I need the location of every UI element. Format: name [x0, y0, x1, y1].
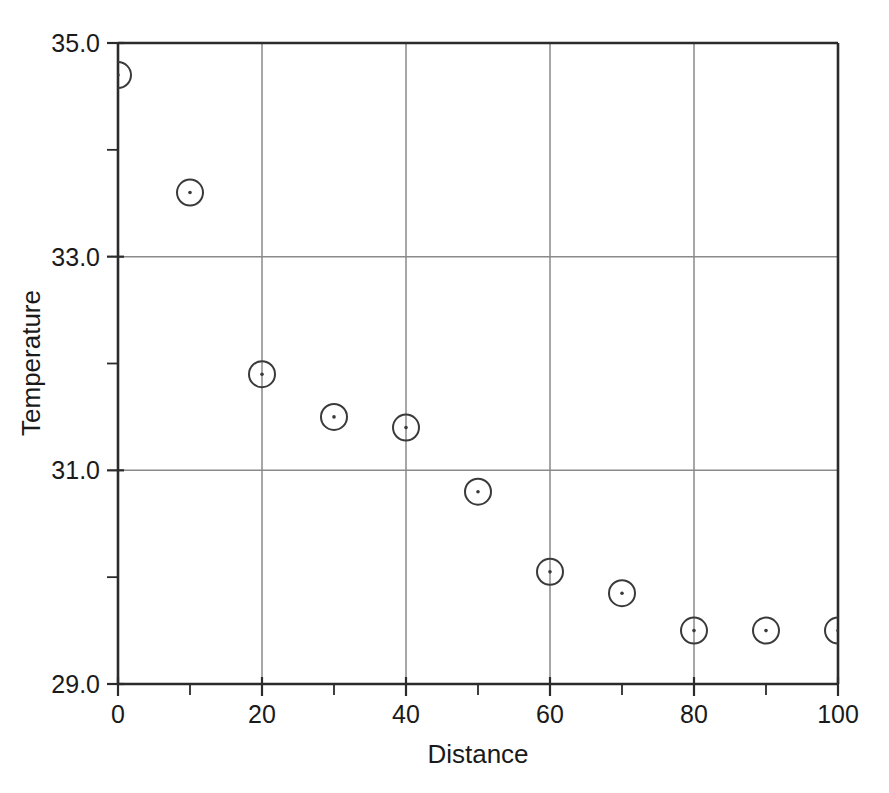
y-tick-label: 29.0 — [51, 670, 100, 698]
y-tick-label: 35.0 — [51, 29, 100, 57]
y-tick-label: 31.0 — [51, 456, 100, 484]
marker-center-dot — [332, 415, 336, 419]
x-tick-label: 60 — [536, 700, 564, 728]
x-tick-label: 20 — [248, 700, 276, 728]
marker-center-dot — [476, 490, 480, 494]
marker-center-dot — [764, 629, 768, 633]
marker-center-dot — [692, 629, 696, 633]
x-tick-label: 0 — [111, 700, 125, 728]
figure-background — [0, 0, 889, 793]
marker-center-dot — [548, 570, 552, 574]
x-tick-label: 40 — [392, 700, 420, 728]
x-tick-label: 100 — [817, 700, 859, 728]
x-axis-title: Distance — [427, 739, 528, 769]
marker-center-dot — [188, 191, 192, 195]
chart-figure: 29.031.033.035.0 020406080100 Distance T… — [0, 0, 889, 793]
marker-center-dot — [620, 591, 624, 595]
scatter-plot: 29.031.033.035.0 020406080100 Distance T… — [0, 0, 889, 793]
x-tick-label: 80 — [680, 700, 708, 728]
y-axis-title: Temperature — [16, 290, 46, 436]
y-tick-label: 33.0 — [51, 243, 100, 271]
marker-center-dot — [404, 426, 408, 430]
marker-center-dot — [260, 372, 264, 376]
